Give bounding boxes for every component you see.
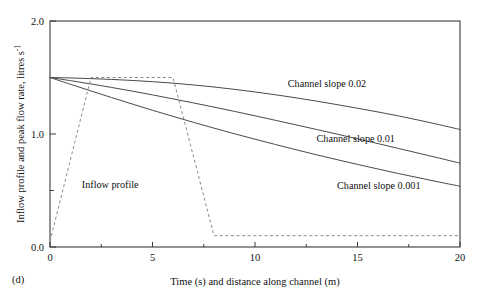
- curve-series-2: [50, 78, 460, 187]
- series-label-2: Channel slope 0.001: [337, 180, 420, 191]
- chart-figure: 05101520 0.01.02.0 Channel slope 0.02Cha…: [0, 0, 479, 294]
- series-paths: [50, 78, 460, 242]
- x-axis-title: Time (s) and distance along channel (m): [170, 276, 340, 288]
- y-tick-label: 0.0: [31, 242, 44, 253]
- x-tick-label: 20: [455, 252, 466, 263]
- series-label-0: Channel slope 0.02: [288, 78, 366, 89]
- x-tick-label: 15: [352, 252, 363, 263]
- plot-frame: [50, 21, 460, 247]
- inflow-profile-curve: [50, 78, 460, 242]
- x-tick-label: 0: [47, 252, 52, 263]
- y-tick-label: 1.0: [31, 129, 44, 140]
- series-label-1: Channel slope 0.01: [317, 133, 395, 144]
- x-tick-label: 5: [150, 252, 155, 263]
- inflow-peak-flow-chart: 05101520 0.01.02.0 Channel slope 0.02Cha…: [0, 0, 479, 294]
- x-tick-label: 10: [250, 252, 261, 263]
- y-axis-ticks: [50, 21, 56, 247]
- x-axis-tick-labels: 05101520: [47, 252, 465, 263]
- series-annotations: Channel slope 0.02Channel slope 0.01Chan…: [82, 78, 421, 192]
- curve-series-0: [50, 78, 460, 130]
- panel-label: (d): [12, 274, 25, 286]
- inflow-profile-label: Inflow profile: [82, 179, 139, 190]
- y-axis-title: Inflow profile and peak flow rate, litre…: [13, 45, 26, 223]
- y-tick-label: 2.0: [31, 16, 44, 27]
- y-axis-tick-labels: 0.01.02.0: [31, 16, 44, 253]
- x-axis-ticks: [50, 242, 460, 247]
- y-axis-title-group: Inflow profile and peak flow rate, litre…: [13, 45, 26, 223]
- curve-series-1: [50, 78, 460, 164]
